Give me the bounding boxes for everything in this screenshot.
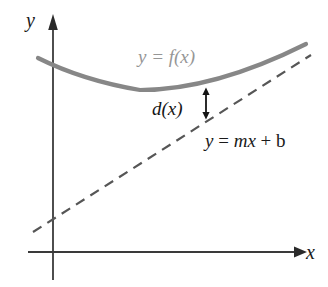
line-label: y = mx + b [205,131,286,150]
x-axis-label: x [306,242,315,262]
line-label-plus: + [256,130,276,151]
line-label-m: m [234,130,248,151]
line-label-equals: = [213,130,233,151]
y-axis-arrowhead-icon [48,14,58,30]
curve-label: y = f(x) [138,47,195,66]
line-label-x: x [247,130,255,151]
distance-arrow-head-down-icon [202,112,209,120]
math-figure: y x y = f(x) d(x) y = mx + b [0,0,328,287]
distance-label: d(x) [152,99,183,118]
distance-arrow-icon [202,88,209,120]
y-axis-label: y [26,10,35,30]
x-axis [28,247,307,258]
y-axis [48,14,58,280]
line-label-b: b [276,130,286,151]
distance-arrow-head-up-icon [202,88,209,96]
